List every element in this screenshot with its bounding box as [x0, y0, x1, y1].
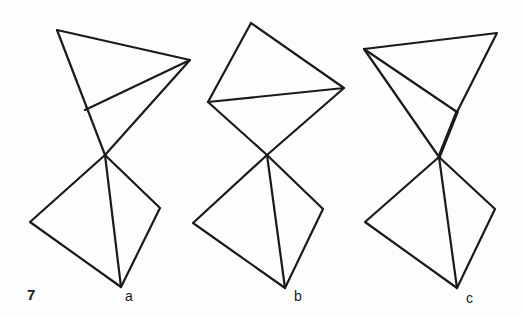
panel-c-lower-internal-edge: [439, 157, 457, 288]
panel-a-lower-internal-edge: [105, 155, 121, 287]
figure-number: 7: [27, 286, 35, 303]
panel-c-drawing: [364, 33, 497, 288]
panel-c-bold-edge: [439, 112, 457, 157]
panel-b-lower-outline: [193, 155, 323, 288]
panel-a-label: a: [125, 288, 133, 304]
panel-a-drawing: [30, 30, 190, 287]
figure-7: 7 a b c: [0, 0, 524, 317]
triangle-diagrams: [0, 0, 524, 317]
panel-a-lower-outline: [30, 155, 160, 287]
panel-b-drawing: [193, 23, 344, 288]
panel-c-lower-outline: [365, 157, 495, 288]
panel-b-lower-internal-edge: [267, 155, 285, 288]
panel-c-label: c: [466, 290, 473, 306]
panel-b-label: b: [294, 288, 302, 304]
panel-b-upper-internal-edge: [208, 88, 344, 102]
panel-a-upper-internal-edge: [85, 60, 190, 110]
panel-c-upper-internal-edge: [364, 49, 457, 112]
